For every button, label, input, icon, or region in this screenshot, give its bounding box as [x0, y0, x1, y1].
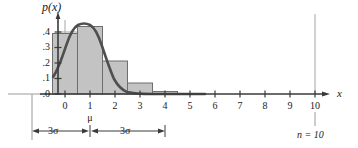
x-tick-label: 3	[130, 101, 150, 111]
x-tick-label: 6	[205, 101, 225, 111]
x-tick-label: 2	[105, 101, 125, 111]
sigma-label-right: 3σ	[120, 126, 130, 136]
mu-label: μ	[80, 113, 100, 123]
sigma-label-left: 3σ	[48, 126, 58, 136]
x-tick-label: 5	[180, 101, 200, 111]
y-axis-title: p(x)	[42, 1, 61, 13]
y-tick-label: .4	[32, 27, 50, 37]
x-tick-label: 7	[230, 101, 250, 111]
sample-size-annotation: n = 10	[297, 130, 324, 140]
x-tick-label: 8	[255, 101, 275, 111]
x-axis-title: x	[337, 88, 342, 99]
histogram-bar	[53, 34, 78, 95]
x-tick-label: 9	[280, 101, 300, 111]
x-tick-label: 4	[155, 101, 175, 111]
figure-canvas: p(x) .4 .3 .2 .1 .0 0 1 2 3 4 5 6 7 8 9 …	[0, 0, 358, 148]
y-tick-label: .0	[32, 89, 50, 99]
y-tick-label: .1	[32, 73, 50, 83]
x-tick-label: 10	[305, 101, 325, 111]
y-tick-label: .2	[32, 58, 50, 68]
x-tick-label: 0	[55, 101, 75, 111]
histogram-bars	[53, 27, 178, 95]
x-tick-label: 1	[80, 101, 100, 111]
y-tick-label: .3	[32, 42, 50, 52]
